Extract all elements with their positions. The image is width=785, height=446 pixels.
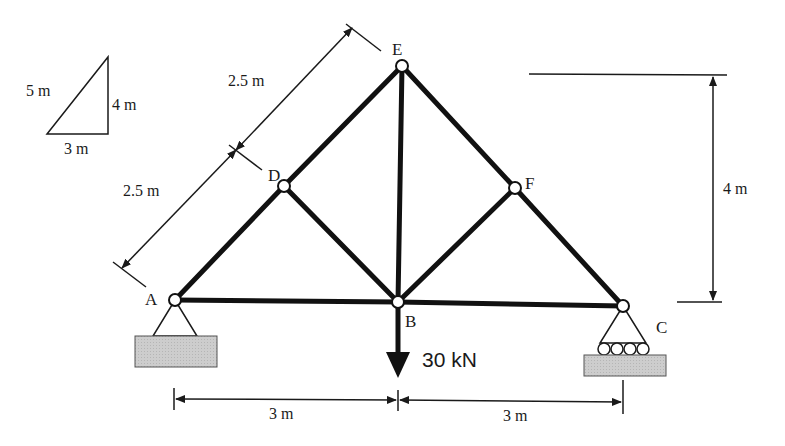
slope-lower-label: 2.5 m: [123, 182, 159, 200]
triangle-vertical-label: 4 m: [112, 96, 136, 114]
member-DB: [284, 186, 398, 302]
slope-upper-label: 2.5 m: [228, 72, 264, 90]
truss-diagram: 5 m 4 m 3 m 2.5 m 2.5 m 4 m 3 m 3 m A B …: [0, 0, 785, 446]
member-AD: [175, 186, 284, 300]
joint-e: [396, 60, 408, 72]
height-label: 4 m: [723, 180, 747, 198]
member-AB: [175, 300, 398, 302]
node-label-f: F: [525, 174, 534, 194]
member-BC: [398, 302, 623, 306]
member-FC: [515, 188, 623, 306]
triangle-horizontal-label: 3 m: [64, 140, 88, 158]
member-DE: [284, 66, 402, 186]
truss-members: [175, 66, 623, 306]
member-EF: [402, 66, 515, 188]
node-label-d: D: [268, 166, 280, 186]
slope-triangle: [47, 57, 108, 134]
node-label-a: A: [145, 290, 157, 310]
span-dimensions: [174, 380, 623, 414]
load-label: 30 kN: [422, 348, 477, 372]
slope-dimensions: [113, 24, 381, 287]
joint-b: [392, 296, 404, 308]
joint-a: [169, 294, 181, 306]
span-left-label: 3 m: [269, 405, 293, 423]
node-label-b: B: [405, 312, 416, 332]
joint-c: [617, 300, 629, 312]
member-EB: [398, 66, 402, 302]
node-label-c: C: [656, 318, 667, 338]
pin-support-a: [135, 300, 217, 367]
member-FB: [398, 188, 515, 302]
node-label-e: E: [392, 40, 402, 60]
joint-f: [509, 182, 521, 194]
triangle-hyp-label: 5 m: [26, 82, 50, 100]
roller-support-c: [584, 306, 666, 376]
height-dimension: [529, 74, 727, 302]
span-right-label: 3 m: [503, 407, 527, 425]
